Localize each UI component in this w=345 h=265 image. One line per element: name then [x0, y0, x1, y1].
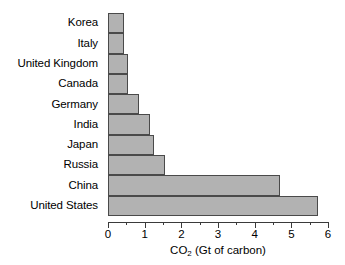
bar-row	[108, 155, 327, 175]
bar	[108, 155, 165, 175]
bar	[108, 54, 128, 74]
y-axis-tick-label: United States	[0, 196, 103, 216]
x-axis-tick-label: 1	[141, 229, 147, 241]
bar-row	[108, 13, 327, 33]
y-axis-tick-label: Korea	[0, 13, 103, 33]
x-axis-title: CO2 (Gt of carbon)	[108, 245, 328, 257]
y-axis-tick-label: Japan	[0, 135, 103, 155]
y-axis-category-labels: KoreaItalyUnited KingdomCanadaGermanyInd…	[0, 13, 103, 216]
x-axis-title-rest: (Gt of carbon)	[192, 244, 266, 256]
x-axis-tick-label: 0	[105, 229, 111, 241]
x-axis-title-subscript: 2	[187, 249, 191, 258]
y-axis-tick-label: Germany	[0, 94, 103, 114]
x-axis-minor-tick	[236, 222, 237, 225]
bar	[108, 94, 139, 114]
x-axis-minor-tick	[126, 222, 127, 225]
bar-row	[108, 74, 327, 94]
x-axis-tick-label: 6	[325, 229, 331, 241]
bar-row	[108, 175, 327, 195]
bar	[108, 135, 154, 155]
bar-row	[108, 54, 327, 74]
x-axis-minor-tick	[310, 222, 311, 225]
bar	[108, 114, 150, 134]
y-axis-tick-label: India	[0, 114, 103, 134]
bar	[108, 33, 124, 53]
x-axis-title-main: CO	[170, 244, 187, 256]
x-axis-tick-label: 3	[215, 229, 221, 241]
bar-row	[108, 33, 327, 53]
bar-row	[108, 135, 327, 155]
y-axis-tick-label: Italy	[0, 33, 103, 53]
y-axis-tick-label: China	[0, 175, 103, 195]
bar-row	[108, 114, 327, 134]
x-axis-minor-tick	[163, 222, 164, 225]
y-axis-tick-label: United Kingdom	[0, 54, 103, 74]
x-axis-tick-label: 4	[251, 229, 257, 241]
bar-row	[108, 196, 327, 216]
plot-area	[108, 13, 327, 216]
bar-row	[108, 94, 327, 114]
x-axis-tick-label: 2	[178, 229, 184, 241]
x-axis-tick-labels: 0123456	[108, 229, 328, 243]
bar	[108, 74, 128, 94]
bar-series	[108, 13, 327, 216]
bar	[108, 13, 124, 33]
x-axis-minor-tick	[273, 222, 274, 225]
x-axis-minor-tick	[200, 222, 201, 225]
bar	[108, 196, 318, 216]
bar-chart: KoreaItalyUnited KingdomCanadaGermanyInd…	[0, 0, 345, 265]
y-axis-tick-label: Russia	[0, 155, 103, 175]
bar	[108, 175, 280, 195]
y-axis-tick-label: Canada	[0, 74, 103, 94]
x-axis-tick-label: 5	[288, 229, 294, 241]
